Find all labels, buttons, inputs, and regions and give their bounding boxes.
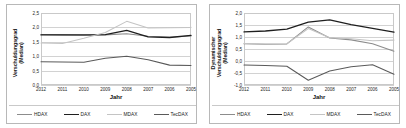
legend-item-dax[interactable]: DAX [64,112,91,117]
legend-item-tecdax[interactable]: TecDAX [154,112,188,117]
y-tick-label: 1,5 [212,23,244,28]
chart-panel-left: Verschuldungsgrad (Median) 0,00,51,01,52… [0,0,203,128]
legend-label: DAX [81,112,91,117]
legend-right: HDAXDAXMDAXTecDAX [212,105,399,123]
legend-swatch-hdax-icon [220,114,235,115]
legend-swatch-tecdax-icon [357,114,372,115]
legend-swatch-dax-icon [64,114,79,115]
legend-item-tecdax[interactable]: TecDAX [357,112,391,117]
plot-lines-left [41,13,191,85]
x-tick-label: 2008 [325,87,335,92]
x-tick-label: 2009 [303,87,313,92]
series-line-tecdax [41,56,191,65]
x-tick-label: 2009 [100,87,110,92]
x-tick-label: 2005 [389,87,399,92]
chart-panel-right-frame: Dynamischer Verschuldungsgrad (Median) -… [209,4,400,124]
x-axis-title-left: Jahr [41,94,191,100]
chart-panel-right: Dynamischer Verschuldungsgrad (Median) -… [203,0,406,128]
y-tick-label: 2,0 [212,11,244,16]
legend-label: HDAX [237,112,250,117]
y-tick-label: 1,0 [9,54,41,59]
plot-lines-right [244,13,394,85]
series-line-dax [244,20,394,32]
chart-panel-left-frame: Verschuldungsgrad (Median) 0,00,51,01,52… [6,4,197,124]
y-tick-label: 1,0 [212,35,244,40]
legend-label: MDAX [124,112,138,117]
legend-label: DAX [284,112,294,117]
legend-swatch-dax-icon [267,114,282,115]
series-line-tecdax [244,65,394,80]
x-tick-label: 2006 [165,87,175,92]
y-tick-label: 1,5 [9,39,41,44]
legend-swatch-hdax-icon [17,114,32,115]
y-axis-ticks-left: 0,00,51,01,52,02,5 [7,13,41,85]
x-tick-label: 2007 [346,87,356,92]
x-tick-label: 2012 [36,87,46,92]
chart-left-area: Verschuldungsgrad (Median) 0,00,51,01,52… [7,5,198,109]
legend-swatch-tecdax-icon [154,114,169,115]
y-tick-label: 0,5 [9,68,41,73]
legend-item-mdax[interactable]: MDAX [310,112,341,117]
figure-two-line-charts: Verschuldungsgrad (Median) 0,00,51,01,52… [0,0,406,128]
x-tick-label: 2011 [58,87,68,92]
x-tick-label: 2007 [143,87,153,92]
x-tick-label: 2012 [239,87,249,92]
chart-right-area: Dynamischer Verschuldungsgrad (Median) -… [210,5,401,109]
y-tick-label: 2,0 [9,25,41,30]
y-axis-ticks-right: -1,0-0,50,00,51,01,52,0 [210,13,244,85]
legend-item-hdax[interactable]: HDAX [220,112,250,117]
legend-label: TecDAX [374,112,391,117]
legend-swatch-mdax-icon [310,114,325,115]
x-axis-title-right: Jahr [244,94,394,100]
legend-left: HDAXDAXMDAXTecDAX [9,105,196,123]
y-tick-label: 0,5 [212,47,244,52]
x-tick-label: 2006 [368,87,378,92]
x-tick-label: 2011 [261,87,271,92]
x-tick-label: 2010 [282,87,292,92]
legend-item-dax[interactable]: DAX [267,112,294,117]
legend-label: HDAX [34,112,47,117]
plot-area-left [41,13,191,85]
y-tick-label: 0,0 [212,59,244,64]
legend-label: TecDAX [171,112,188,117]
legend-item-mdax[interactable]: MDAX [107,112,138,117]
x-tick-label: 2008 [122,87,132,92]
y-tick-label: -0,5 [212,71,244,76]
legend-label: MDAX [327,112,341,117]
x-tick-label: 2010 [79,87,89,92]
legend-swatch-mdax-icon [107,114,122,115]
plot-area-right [244,13,394,85]
legend-item-hdax[interactable]: HDAX [17,112,47,117]
y-tick-label: 2,5 [9,11,41,16]
x-tick-label: 2005 [186,87,196,92]
